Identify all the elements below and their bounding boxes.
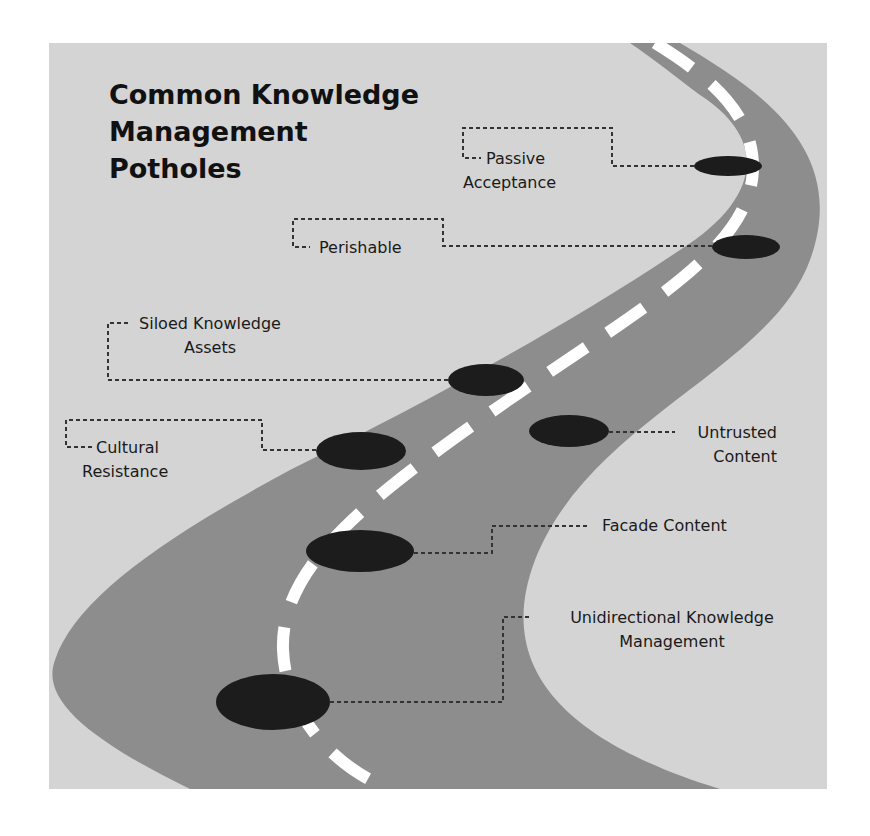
label-passive-acceptance: Passive Acceptance bbox=[486, 147, 556, 195]
title-line-3: Potholes bbox=[109, 150, 419, 187]
pothole-perishable bbox=[712, 235, 780, 259]
label-unidirectional-km: Unidirectional Knowledge Management bbox=[537, 606, 807, 654]
label-line: Siloed Knowledge bbox=[134, 312, 286, 336]
diagram-title: Common Knowledge Management Potholes bbox=[109, 76, 419, 187]
pothole-siloed-knowledge-assets bbox=[448, 364, 524, 396]
label-line: Acceptance bbox=[463, 171, 556, 195]
pothole-cultural-resistance bbox=[316, 432, 406, 470]
pothole-untrusted-content bbox=[529, 415, 609, 447]
label-line: Cultural bbox=[96, 436, 168, 460]
label-line: Passive bbox=[486, 147, 556, 171]
label-untrusted-content: Untrusted Content bbox=[662, 421, 777, 469]
label-facade-content: Facade Content bbox=[602, 514, 727, 538]
pothole-facade-content bbox=[306, 530, 414, 572]
potholes-diagram: Common Knowledge Management Potholes Pas… bbox=[0, 0, 870, 836]
label-line: Perishable bbox=[319, 236, 402, 260]
title-line-2: Management bbox=[109, 113, 419, 150]
label-line: Unidirectional Knowledge bbox=[537, 606, 807, 630]
label-perishable: Perishable bbox=[319, 236, 402, 260]
label-line: Resistance bbox=[82, 460, 168, 484]
pothole-passive-acceptance bbox=[694, 156, 762, 176]
label-line: Facade Content bbox=[602, 514, 727, 538]
label-line: Untrusted bbox=[662, 421, 777, 445]
label-siloed-knowledge-assets: Siloed Knowledge Assets bbox=[134, 312, 286, 360]
label-line: Content bbox=[662, 445, 777, 469]
label-cultural-resistance: Cultural Resistance bbox=[96, 436, 168, 484]
label-line: Assets bbox=[134, 336, 286, 360]
pothole-unidirectional-km bbox=[216, 674, 330, 730]
label-line: Management bbox=[537, 630, 807, 654]
title-line-1: Common Knowledge bbox=[109, 76, 419, 113]
